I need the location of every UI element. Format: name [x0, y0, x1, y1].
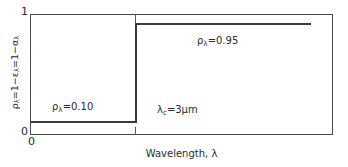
x-axis-title-symbol: λ	[211, 148, 217, 159]
data-curve-high-plateau	[135, 23, 311, 25]
annotation-high-value: =0.95	[208, 35, 239, 46]
annotation-high-reflectivity: ρλ=0.95	[197, 35, 238, 47]
data-curve-step-riser	[135, 23, 137, 123]
cutoff-tick-bottom	[135, 127, 136, 135]
y-axis-title-lambda-2: λ	[13, 68, 21, 72]
y-axis-title-eq-1: =1−	[9, 77, 20, 99]
y-axis-title-lambda-3: λ	[13, 36, 21, 40]
y-axis-title: ρλ=1−ελ=1−αλ	[9, 13, 20, 133]
y-axis-title-epsilon: ε	[9, 72, 20, 77]
y-axis-tick-label-top: 1	[17, 6, 28, 18]
y-axis-title-lambda-1: λ	[13, 99, 21, 103]
y-axis-title-eq-2: =1−	[9, 46, 20, 68]
y-axis-title-alpha: α	[9, 40, 20, 46]
annotation-low-value: =0.10	[63, 101, 94, 112]
spectral-reflectivity-figure: ρλ=1−ελ=1−αλ 1 0 0 ρλ=0.10 ρλ=0.95 λc=3μ…	[0, 0, 348, 167]
annotation-cutoff-value: =3μm	[167, 104, 198, 115]
annotation-low-reflectivity: ρλ=0.10	[52, 101, 93, 113]
x-axis-title: Wavelength, λ	[30, 148, 333, 160]
y-axis-tick-label-bottom: 0	[17, 126, 28, 138]
x-axis-title-text: Wavelength,	[146, 148, 212, 159]
plot-frame	[30, 14, 333, 135]
cutoff-tick-top	[135, 15, 136, 23]
data-curve-low-plateau	[31, 121, 137, 123]
y-axis-title-rho: ρ	[9, 103, 20, 109]
annotation-cutoff-wavelength: λc=3μm	[157, 104, 198, 116]
x-axis-tick-label-origin: 0	[28, 136, 35, 148]
